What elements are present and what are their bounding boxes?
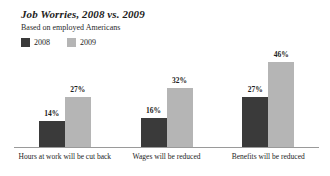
legend-label-2009: 2009	[80, 38, 96, 47]
bar-group-wages: 16% 32%	[116, 55, 218, 147]
legend-swatch-2008	[21, 38, 30, 47]
chart-plot-area: 14% 27% 16% 32%	[14, 55, 319, 147]
bar-2009-hours: 27%	[65, 97, 91, 147]
bar-value-2008-hours: 14%	[44, 109, 59, 118]
category-label-hours: Hours at work will be cut back	[14, 152, 116, 161]
bar-value-2009-wages: 32%	[172, 76, 187, 85]
bar-2009-wages: 32%	[167, 88, 193, 147]
bar-wrap: 32%	[167, 88, 193, 147]
chart-subtitle: Based on employed Americans	[21, 23, 120, 32]
category-label-benefits: Benefits will be reduced	[217, 152, 319, 161]
legend-item-2009: 2009	[67, 38, 96, 47]
bar-group-hours-at-work: 14% 27%	[14, 55, 116, 147]
bar-value-2008-benefits: 27%	[248, 85, 263, 94]
bar-value-2008-wages: 16%	[146, 106, 161, 115]
bar-wrap: 27%	[242, 97, 268, 147]
legend-swatch-2009	[67, 38, 76, 47]
bar-wrap: 16%	[141, 118, 167, 147]
chart-legend: 2008 2009	[21, 38, 106, 47]
bar-value-2009-benefits: 46%	[274, 50, 289, 59]
bar-2008-hours: 14%	[39, 121, 65, 147]
chart-container: Job Worries, 2008 vs. 2009 Based on empl…	[0, 0, 330, 176]
x-axis-category-labels: Hours at work will be cut back Wages wil…	[14, 152, 319, 161]
bar-2009-benefits: 46%	[268, 62, 294, 147]
category-label-wages: Wages will be reduced	[116, 152, 218, 161]
bar-2008-wages: 16%	[141, 118, 167, 147]
legend-item-2008: 2008	[21, 38, 50, 47]
chart-title: Job Worries, 2008 vs. 2009	[21, 8, 145, 20]
bar-wrap: 27%	[65, 97, 91, 147]
bar-wrap: 14%	[39, 121, 65, 147]
bar-value-2009-hours: 27%	[70, 85, 85, 94]
bar-2008-benefits: 27%	[242, 97, 268, 147]
legend-label-2008: 2008	[34, 38, 50, 47]
bar-group-benefits: 27% 46%	[217, 55, 319, 147]
x-axis-line	[14, 147, 319, 148]
bar-wrap: 46%	[268, 62, 294, 147]
